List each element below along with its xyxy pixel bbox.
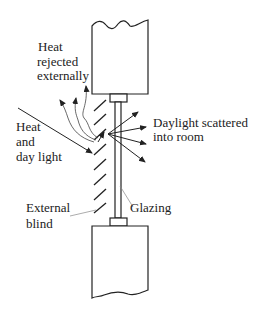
upper-wall — [92, 20, 148, 94]
daylight-scattered-label: Daylight scattered into room — [153, 115, 251, 144]
lower-wall — [92, 226, 148, 298]
glazing-pane — [115, 102, 121, 218]
daylight-scattered-arrows — [108, 112, 146, 162]
blind-leader — [70, 210, 96, 216]
external-blind-diagram: Heat rejected externally Heat and day li… — [0, 0, 257, 315]
upper-frame — [110, 94, 127, 102]
heat-daylight-label: Heat and day light — [16, 119, 62, 164]
lower-frame — [110, 218, 127, 226]
external-blind-slats — [94, 100, 106, 213]
external-blind-label: External blind — [26, 200, 73, 231]
heat-rejected-label: Heat rejected externally — [37, 39, 89, 83]
glazing-label: Glazing — [130, 200, 172, 215]
